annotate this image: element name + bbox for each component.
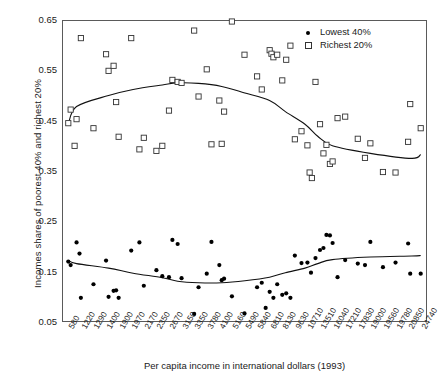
y-tick-label: 0.45 bbox=[17, 116, 57, 126]
y-tick-label: 0.55 bbox=[17, 65, 57, 75]
y-axis-title: Incomes shares of poorest 40% and riches… bbox=[32, 34, 43, 334]
open-square-icon bbox=[300, 42, 316, 49]
y-tick-label: 0.65 bbox=[17, 15, 57, 25]
y-tick-label: 0.15 bbox=[17, 267, 57, 277]
y-tick-label: 0.25 bbox=[17, 216, 57, 226]
legend-item-lowest40: Lowest 40% bbox=[300, 26, 372, 39]
filled-circle-icon bbox=[300, 31, 316, 35]
plot-area bbox=[62, 20, 427, 322]
y-tick-label: 0.35 bbox=[17, 166, 57, 176]
scatter-chart-figure: Incomes shares of poorest 40% and riches… bbox=[0, 0, 441, 379]
y-tick-label: 0.05 bbox=[17, 317, 57, 327]
chart-legend: Lowest 40% Richest 20% bbox=[300, 26, 372, 52]
legend-label-richest20: Richest 20% bbox=[320, 39, 372, 52]
legend-item-richest20: Richest 20% bbox=[300, 39, 372, 52]
legend-label-lowest40: Lowest 40% bbox=[320, 26, 371, 39]
x-axis-title: Per capita income in international dolla… bbox=[62, 360, 427, 371]
